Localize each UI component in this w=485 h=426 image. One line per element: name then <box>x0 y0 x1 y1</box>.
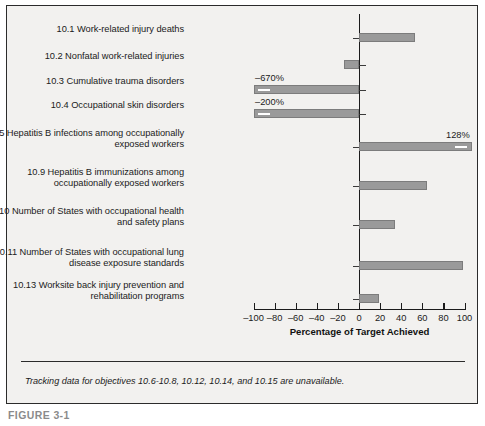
category-label: 10.11 Number of States with occupational… <box>0 247 184 269</box>
bar <box>359 220 395 229</box>
figure-frame: 10.1 Work-related injury deaths10.2 Nonf… <box>6 5 478 404</box>
bar <box>254 109 359 118</box>
bar <box>359 261 463 270</box>
x-axis-tick <box>275 303 276 310</box>
x-axis-tick <box>359 303 360 310</box>
axis-break-mark <box>455 146 467 148</box>
category-label-line: 10.4 Occupational skin disorders <box>0 100 184 111</box>
category-label: 10.4 Occupational skin disorders <box>0 100 184 111</box>
category-label-line: 10.2 Nonfatal work-related injuries <box>0 51 184 62</box>
bar <box>359 33 415 42</box>
axis-break-mark <box>258 113 270 115</box>
bar-chart-plot-area: 10.1 Work-related injury deaths10.2 Nonf… <box>7 6 479 336</box>
bar <box>359 294 379 303</box>
footnote-text: Tracking data for objectives 10.6-10.8, … <box>25 376 465 386</box>
bar-value-label: –200% <box>255 97 284 107</box>
category-label: 10.2 Nonfatal work-related injuries <box>0 51 184 62</box>
zero-baseline-axis <box>359 14 360 301</box>
category-label: 10.1 Work-related injury deaths <box>0 24 184 35</box>
x-axis-tick <box>443 303 444 310</box>
bar-value-label: –670% <box>255 73 284 83</box>
x-axis-tick <box>296 303 297 310</box>
category-label: 10.3 Cumulative trauma disorders <box>0 76 184 87</box>
x-axis-title: Percentage of Target Achieved <box>254 326 465 337</box>
footnote-divider <box>21 361 465 362</box>
category-label: 10.9 Hepatitis B immunizations amongoccu… <box>0 167 184 189</box>
category-label-line: exposed workers <box>0 139 184 150</box>
bar <box>254 85 359 94</box>
category-label-line: disease exposure standards <box>0 258 184 269</box>
category-label-line: occupationally exposed workers <box>0 178 184 189</box>
x-axis-tick <box>422 303 423 310</box>
category-label-line: 10.10 Number of States with occupational… <box>0 206 184 217</box>
category-label-line: and safety plans <box>0 217 184 228</box>
category-label-line: 10.5 Hepatitis B infections among occupa… <box>0 128 184 139</box>
bar <box>359 142 472 151</box>
category-label: 10.5 Hepatitis B infections among occupa… <box>0 128 184 150</box>
bar <box>344 60 359 69</box>
category-label: 10.10 Number of States with occupational… <box>0 206 184 228</box>
category-label-line: 10.9 Hepatitis B immunizations among <box>0 167 184 178</box>
x-axis-tick <box>254 303 255 310</box>
x-axis-tick <box>465 303 466 310</box>
x-axis-tick-label: 100 <box>450 313 480 323</box>
category-label-line: 10.3 Cumulative trauma disorders <box>0 76 184 87</box>
category-label-line: 10.1 Work-related injury deaths <box>0 24 184 35</box>
figure-caption: FIGURE 3-1 <box>8 409 70 421</box>
figure-page: 10.1 Work-related injury deaths10.2 Nonf… <box>0 0 485 426</box>
category-label-line: 10.11 Number of States with occupational… <box>0 247 184 258</box>
x-axis-tick <box>401 303 402 310</box>
category-label: 10.13 Worksite back injury prevention an… <box>0 280 184 302</box>
axis-break-mark <box>258 89 270 91</box>
x-axis-tick <box>338 303 339 310</box>
x-axis-tick <box>380 303 381 310</box>
x-axis-tick <box>317 303 318 310</box>
category-label-line: 10.13 Worksite back injury prevention an… <box>0 280 184 291</box>
category-label-line: rehabilitation programs <box>0 291 184 302</box>
bar-value-label: 128% <box>446 130 470 140</box>
bar <box>359 181 427 190</box>
